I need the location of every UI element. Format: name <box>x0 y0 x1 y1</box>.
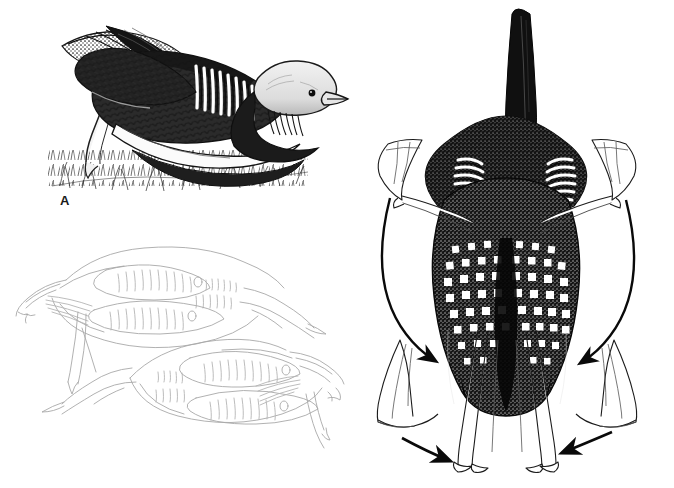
panel-label-a: A <box>60 194 69 207</box>
panel-c-drawing <box>340 0 674 488</box>
right-motion-arc <box>582 200 634 362</box>
panel-c: C <box>340 0 674 488</box>
left-motion-arc <box>382 198 434 360</box>
panel-b-drawing <box>0 222 350 452</box>
left-convergence-arrow <box>402 438 448 460</box>
panel-a-drawing <box>0 0 350 225</box>
right-convergence-arrow <box>564 432 612 452</box>
panel-b-bird-lower <box>42 339 344 448</box>
illustration-plate: A <box>0 0 674 488</box>
panel-a: A <box>0 0 350 225</box>
panel-b-bird-upper <box>16 247 326 394</box>
panel-b: B <box>0 222 350 452</box>
